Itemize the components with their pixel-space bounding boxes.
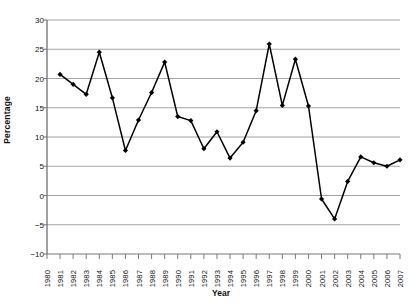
data-point-marker — [162, 60, 167, 65]
data-point-marker — [371, 160, 376, 165]
x-tick-label: 1989 — [161, 270, 170, 287]
x-tick-label: 2001 — [318, 270, 327, 287]
x-tick-label: 1986 — [121, 270, 130, 287]
line-chart: Percentage 302520151050−5−10 19801981198… — [0, 0, 414, 308]
x-tick-label: 2004 — [357, 270, 366, 287]
data-point-marker — [267, 41, 272, 46]
x-tick-label: 1988 — [148, 270, 157, 287]
x-tick-label: 1980 — [43, 270, 52, 287]
x-tick-label: 1993 — [213, 270, 222, 287]
x-tick-label: 1984 — [95, 270, 104, 287]
x-axis-tick-labels: 1980198119821983198419851986198719881989… — [0, 255, 414, 287]
data-line — [60, 44, 400, 219]
data-point-marker — [149, 90, 154, 95]
x-tick-label: 1992 — [200, 270, 209, 287]
x-tick-label: 1999 — [291, 270, 300, 287]
data-point-marker — [97, 50, 102, 55]
x-tick-label: 2003 — [344, 270, 353, 287]
data-point-marker — [123, 148, 128, 153]
x-tick-label: 1985 — [108, 270, 117, 287]
data-point-marker — [280, 103, 285, 108]
x-tick-label: 2000 — [304, 270, 313, 287]
x-tick-label: 1987 — [135, 270, 144, 287]
data-point-marker — [345, 179, 350, 184]
data-point-marker — [358, 154, 363, 159]
x-tick-label: 1994 — [226, 270, 235, 287]
x-tick-label: 1981 — [56, 270, 65, 287]
data-point-marker — [397, 157, 402, 162]
data-point-marker — [136, 117, 141, 122]
x-tick-label: 1997 — [265, 270, 274, 287]
x-axis-title: Year — [0, 288, 414, 298]
x-tick-label: 2007 — [396, 270, 405, 287]
data-point-marker — [175, 114, 180, 119]
x-tick-label: 1990 — [174, 270, 183, 287]
x-tick-label: 2002 — [331, 270, 340, 287]
x-tick-label: 1995 — [239, 270, 248, 287]
data-point-marker — [384, 164, 389, 169]
data-point-marker — [254, 108, 259, 113]
x-tick-label: 1998 — [278, 270, 287, 287]
data-point-marker — [110, 95, 115, 100]
x-tick-label: 1983 — [82, 270, 91, 287]
x-tick-label: 2006 — [383, 270, 392, 287]
x-tick-label: 1996 — [252, 270, 261, 287]
data-point-marker — [293, 57, 298, 62]
data-point-marker — [188, 118, 193, 123]
x-tick-label: 1982 — [69, 270, 78, 287]
x-tick-label: 1991 — [187, 270, 196, 287]
x-tick-label: 2005 — [370, 270, 379, 287]
